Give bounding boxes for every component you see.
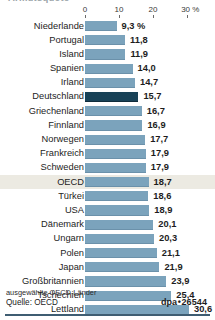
table-row: Japan21,9 [0,260,215,274]
bar [85,262,159,272]
x-axis: 0102030 % [0,5,215,19]
bar-value-label: 9,3 % [122,21,146,32]
bar-value-label: 16,9 [147,120,165,131]
row-category-label: Island [0,49,84,60]
chart-container: Armutsquote 0102030 % Niederlande9,3 %Po… [0,0,215,320]
bar [85,205,149,215]
bar-value-label: 16,7 [147,106,165,117]
table-row: OECD18,7 [0,175,215,189]
footnote: ausgewählte OECD-Länder [6,288,96,298]
bar [85,92,138,102]
row-category-label: Türkei [0,191,84,202]
row-category-label: Deutschland [0,91,84,102]
bottom-rule [5,314,210,316]
bar [85,35,125,45]
row-category-label: Dänemark [0,219,84,230]
bar-value-label: 11,9 [130,49,148,60]
bar [85,106,142,116]
bar [85,64,133,74]
bar [85,248,157,258]
bar-value-label: 14,0 [138,63,156,74]
bar [85,78,135,88]
bar-value-label: 20,1 [158,219,176,230]
dpa-credit-number: 26544 [181,297,207,307]
table-row: Island11,9 [0,47,215,61]
table-row: Frankreich17,9 [0,147,215,161]
row-category-label: OECD [0,177,84,188]
table-row: USA18,9 [0,203,215,217]
bar-value-label: 17,7 [150,134,168,145]
bar-value-label: 14,7 [140,77,158,88]
axis-tick-label: 10 [115,5,124,14]
table-row: Norwegen17,7 [0,133,215,147]
axis-tick-mark [187,15,188,18]
table-row: Polen21,1 [0,246,215,260]
bar [85,191,148,201]
bar-value-label: 20,3 [159,233,177,244]
bar [85,177,149,187]
bar-value-label: 18,7 [154,177,172,188]
bar-value-label: 21,9 [164,262,182,273]
bar [85,149,146,159]
bar-value-label: 17,9 [151,148,169,159]
table-row: Schweden17,9 [0,161,215,175]
row-category-label: Irland [0,77,84,88]
bar [85,49,125,59]
bar [85,135,145,145]
row-category-label: Schweden [0,162,84,173]
source-label: Quelle: OECD [6,298,58,308]
bar-value-label: 15,7 [143,91,161,102]
bar-value-label: 11,8 [130,35,148,46]
table-row: Dänemark20,1 [0,218,215,232]
bar-rows: Niederlande9,3 %Portugal11,8Island11,9Sp… [0,19,215,317]
row-category-label: Portugal [0,35,84,46]
row-category-label: Niederlande [0,21,84,32]
row-category-label: Finnland [0,120,84,131]
bar [85,21,117,31]
table-row: Niederlande9,3 % [0,19,215,33]
axis-tick-mark [119,15,120,18]
table-row: Portugal11,8 [0,33,215,47]
table-row: Griechenland16,7 [0,104,215,118]
row-category-label: Polen [0,248,84,259]
bar-value-label: 18,6 [153,191,171,202]
row-category-label: Ungarn [0,233,84,244]
axis-tick-label: 30 % [181,5,199,14]
axis-tick-label: 20 [149,5,158,14]
bar [85,234,154,244]
bar-value-label: 21,1 [162,248,180,259]
cut-off-title-text: Armutsquote [8,0,69,3]
bar [85,163,146,173]
bar [85,120,142,130]
table-row: Deutschland15,7 [0,90,215,104]
axis-tick-label: 0 [83,5,87,14]
chart-footer: ausgewählte OECD-Länder Quelle: OECD dpa… [0,286,215,320]
row-category-label: Frankreich [0,148,84,159]
row-category-label: Griechenland [0,106,84,117]
axis-tick-mark [85,15,86,18]
row-category-label: Spanien [0,63,84,74]
table-row: Ungarn20,3 [0,232,215,246]
row-category-label: Norwegen [0,134,84,145]
dpa-credit: dpa•26544 [161,297,207,307]
bar-value-label: 18,9 [154,205,172,216]
dpa-credit-prefix: dpa [161,297,177,307]
row-category-label: Japan [0,262,84,273]
table-row: Irland14,7 [0,76,215,90]
table-row: Finnland16,9 [0,118,215,132]
axis-tick-mark [153,15,154,18]
row-category-label: USA [0,205,84,216]
table-row: Spanien14,0 [0,62,215,76]
table-row: Türkei18,6 [0,189,215,203]
bar-value-label: 17,9 [151,162,169,173]
bar [85,220,153,230]
